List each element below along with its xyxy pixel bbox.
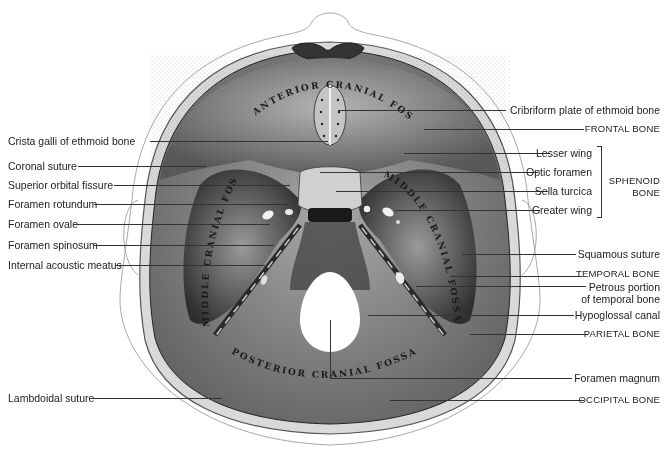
cranial-base-figure: ANTERIOR CRANIAL FOSSA MIDDLE CRANIAL FO… (0, 0, 666, 458)
foramen-spinosum-right (396, 220, 400, 224)
label-petrous-portion-2: of temporal bone (581, 293, 660, 305)
leader-frontal-bone (424, 129, 584, 130)
leader-parietal-bone (470, 334, 588, 335)
leader-superior-orbital-fissure (114, 185, 290, 186)
sphenoid-bracket (597, 146, 602, 218)
label-occipital-bone: OCCIPITAL BONE (579, 394, 660, 406)
sella-turcica (298, 167, 362, 213)
leader-crista-galli (150, 141, 328, 142)
optic-foramen-right (363, 205, 371, 213)
leader-cribriform-plate (338, 110, 506, 111)
dorsum-sellae (308, 208, 352, 222)
label-temporal-bone: TEMPORAL BONE (576, 268, 660, 280)
leader-petrous-portion (416, 286, 586, 287)
leader-hypoglossal-canal (368, 315, 574, 316)
leader-foramen-rotundum (94, 204, 288, 205)
label-cribriform-plate: Cribriform plate of ethmoid bone (510, 104, 660, 116)
label-hypoglossal-canal: Hypoglossal canal (575, 309, 660, 321)
label-crista-galli: Crista galli of ethmoid bone (8, 135, 135, 147)
foramen-rotundum-left (285, 209, 293, 215)
label-coronal-suture: Coronal suture (8, 160, 77, 172)
leader-foramen-spinosum (94, 245, 274, 246)
label-parietal-bone: PARIETAL BONE (584, 328, 660, 340)
leader-foramen-ovale (74, 224, 270, 225)
label-sella-turcica: Sella turcica (535, 185, 592, 197)
label-greater-wing: Greater wing (532, 204, 592, 216)
label-petrous-portion-1: Petrous portion (589, 281, 660, 293)
label-frontal-bone: FRONTAL BONE (585, 123, 660, 135)
leader-occipital-bone (390, 400, 584, 401)
leader-foramen-magnum (330, 378, 572, 379)
label-lesser-wing: Lesser wing (536, 147, 592, 159)
label-internal-acoustic-meatus: Internal acoustic meatus (8, 259, 122, 271)
label-foramen-spinosum: Foramen spinosum (8, 239, 98, 251)
leader-internal-acoustic-meatus (115, 265, 265, 266)
leader-lambdoidal-suture (92, 398, 222, 399)
leader-foramen-magnum-v (330, 320, 331, 378)
label-superior-orbital-fissure: Superior orbital fissure (8, 179, 113, 191)
label-sphenoid-line2: BONE (632, 187, 660, 199)
leader-sella-turcica (336, 191, 548, 192)
label-optic-foramen: Optic foramen (526, 166, 592, 178)
leader-lesser-wing (404, 153, 550, 154)
leader-temporal-bone (450, 276, 582, 277)
leader-greater-wing (395, 210, 540, 211)
leader-coronal-suture (78, 166, 206, 167)
label-sphenoid-line1: SPHENOID (609, 175, 660, 187)
label-lambdoidal-suture: Lambdoidal suture (8, 392, 94, 404)
leader-optic-foramen (320, 172, 538, 173)
label-foramen-magnum: Foramen magnum (574, 372, 660, 384)
label-squamous-suture: Squamous suture (578, 248, 660, 260)
leader-squamous-suture (462, 254, 576, 255)
skull-illustration: ANTERIOR CRANIAL FOSSA MIDDLE CRANIAL FO… (0, 0, 666, 458)
label-foramen-rotundum: Foramen rotundum (8, 198, 97, 210)
label-foramen-ovale: Foramen ovale (8, 218, 78, 230)
